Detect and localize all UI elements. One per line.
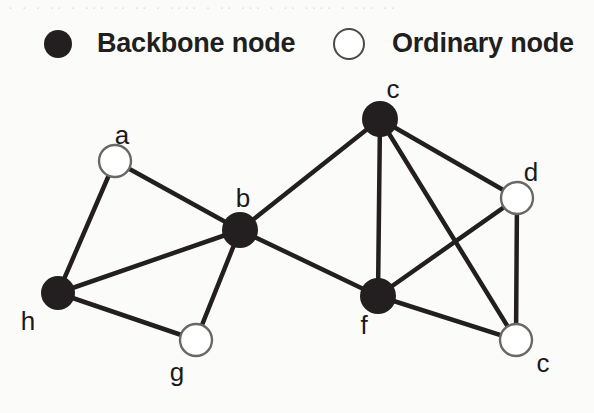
legend-backbone-marker-icon [44, 30, 72, 58]
graph-node-label-b: b [223, 183, 263, 214]
graph-edge-c-d [380, 119, 517, 198]
legend-ordinary-label: Ordinary node [392, 28, 574, 59]
graph-node-g[interactable] [180, 324, 212, 356]
graph-edge-c-f [378, 119, 380, 296]
graph-node-h[interactable] [41, 276, 75, 310]
graph-node-label-f: f [344, 310, 384, 341]
graph-node-label-d: d [511, 157, 551, 188]
graph-node-label-e: c [523, 348, 563, 379]
graph-node-label-a: a [102, 120, 142, 151]
graph-edge-h-b [58, 230, 240, 293]
graph-edge-d-f [378, 198, 517, 296]
graph-edge-a-h [58, 161, 115, 293]
legend-backbone-label: Backbone node [97, 28, 295, 59]
graph-canvas [0, 0, 594, 413]
graph-node-f[interactable] [360, 278, 396, 314]
graph-node-c[interactable] [362, 101, 398, 137]
legend-ordinary-marker-icon [334, 29, 364, 59]
graph-node-label-c: c [373, 74, 413, 105]
network-diagram-figure: · · · ·· · ··· ·· ·· · ···· · ·· ··· · ·… [0, 0, 594, 413]
graph-edge-d-e [516, 198, 517, 340]
graph-edge-h-g [58, 293, 196, 340]
graph-node-label-h: h [8, 306, 48, 337]
graph-edge-b-f [240, 230, 378, 296]
graph-edge-a-b [115, 161, 240, 230]
graph-node-label-g: g [157, 357, 197, 388]
graph-node-b[interactable] [222, 212, 258, 248]
graph-edge-c-e [380, 119, 516, 340]
